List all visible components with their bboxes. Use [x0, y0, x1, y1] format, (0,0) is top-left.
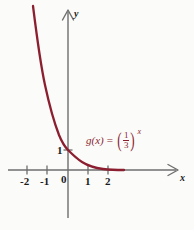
function-equation-label: g(x) = ( 1 3 ) x: [86, 130, 141, 151]
plot-area: [0, 0, 194, 230]
fraction-one-third: 1 3: [123, 131, 130, 151]
x-tick-label-neg1: -1: [40, 176, 49, 187]
function-name: g(x): [86, 135, 104, 146]
fraction-denominator: 3: [123, 140, 130, 150]
exponential-decay-graph: -2 -1 1 2 0 1 x y g(x) = ( 1 3 ) x: [0, 0, 194, 230]
fraction-numerator: 1: [123, 131, 130, 140]
x-tick-label-neg2: -2: [20, 176, 29, 187]
exponent-x: x: [137, 128, 141, 136]
x-tick-label-2: 2: [105, 176, 111, 187]
x-axis-label: x: [180, 173, 185, 183]
origin-label: 0: [61, 174, 67, 185]
left-paren: (: [117, 130, 121, 151]
y-tick-label-1: 1: [57, 145, 63, 156]
x-tick-label-1: 1: [85, 176, 91, 187]
right-paren: ): [131, 130, 135, 151]
equals-sign: =: [107, 135, 113, 146]
y-axis: [63, 10, 74, 218]
y-axis-label: y: [74, 9, 78, 19]
